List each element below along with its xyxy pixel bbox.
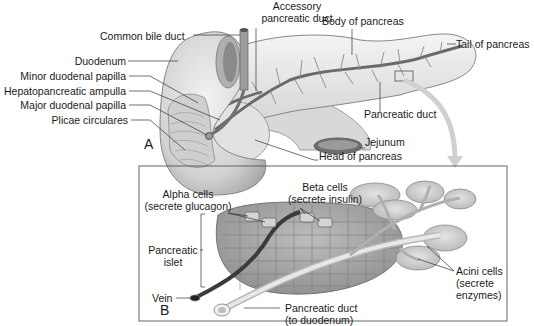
label-pancreatic-duct-to-duodenum: Pancreatic duct (to duodenum) bbox=[285, 302, 357, 326]
panel-letter-b: B bbox=[160, 303, 169, 317]
label-duodenum: Duodenum bbox=[0, 55, 126, 67]
label-line: Beta cells bbox=[280, 181, 370, 193]
label-plicae-circulares: Plicae circulares bbox=[0, 114, 128, 126]
label-line: Acini cells bbox=[456, 265, 503, 277]
label-body-of-pancreas: Body of pancreas bbox=[322, 15, 404, 27]
label-pancreatic-islet: Pancreatic islet bbox=[145, 244, 201, 268]
label-minor-duodenal-papilla: Minor duodenal papilla bbox=[0, 70, 126, 82]
label-jejunum: Jejunum bbox=[365, 136, 405, 148]
label-common-bile-duct: Common bile duct bbox=[100, 30, 185, 42]
label-pancreatic-duct: Pancreatic duct bbox=[364, 108, 436, 120]
label-tail-of-pancreas: Tail of pancreas bbox=[456, 38, 530, 50]
label-line: (secrete insulin) bbox=[280, 193, 370, 205]
label-line: Pancreatic bbox=[145, 244, 201, 256]
label-alpha-cells: Alpha cells (secrete glucagon) bbox=[140, 188, 236, 212]
label-line: (secrete glucagon) bbox=[140, 200, 236, 212]
label-line: enzymes) bbox=[456, 289, 503, 301]
panel-letter-a: A bbox=[144, 137, 153, 151]
label-hepatopancreatic-ampulla: Hepatopancreatic ampulla bbox=[0, 85, 126, 97]
label-line: (to duodenum) bbox=[285, 314, 357, 326]
label-line: Alpha cells bbox=[140, 188, 236, 200]
label-head-of-pancreas: Head of pancreas bbox=[319, 150, 402, 162]
label-line: Pancreatic duct bbox=[285, 302, 357, 314]
label-line: islet bbox=[145, 256, 201, 268]
label-acini-cells: Acini cells (secrete enzymes) bbox=[456, 265, 503, 301]
label-line: Accessory bbox=[257, 0, 337, 12]
label-line: (secrete bbox=[456, 277, 503, 289]
label-beta-cells: Beta cells (secrete insulin) bbox=[280, 181, 370, 205]
label-major-duodenal-papilla: Major duodenal papilla bbox=[0, 99, 126, 111]
